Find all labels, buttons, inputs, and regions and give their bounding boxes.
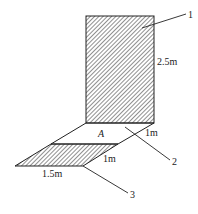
dimension-lower-width: 1.5m [42, 168, 63, 179]
dimension-rect-height: 2.5m [157, 56, 178, 67]
part-label-1: 1 [188, 9, 193, 20]
region-label-a: A [97, 128, 105, 139]
diagram-canvas: 1 2 3 A 2.5m 1m 1m 1.5m [0, 0, 198, 214]
part-1-rectangle [86, 16, 154, 123]
part-label-2: 2 [172, 156, 177, 167]
dimension-lower-depth: 1m [103, 153, 116, 164]
dimension-upper-depth: 1m [145, 127, 158, 138]
leader-line-3 [83, 166, 128, 193]
part-label-3: 3 [130, 189, 135, 200]
